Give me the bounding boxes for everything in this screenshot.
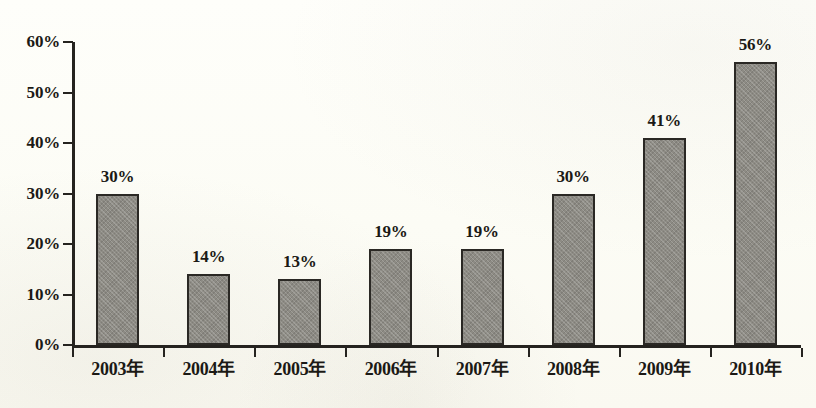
x-axis-tick [254, 348, 256, 357]
x-axis-tick [528, 348, 530, 357]
y-axis-tick-label: 10% [4, 286, 60, 303]
bar-value-label: 19% [437, 223, 527, 240]
x-axis-category-label: 2010年 [710, 360, 801, 378]
y-axis-tick-label: 40% [4, 134, 60, 151]
bar [96, 194, 139, 346]
x-axis-tick [345, 348, 347, 357]
bar-value-label: 30% [528, 168, 618, 185]
y-axis-tick [63, 142, 73, 144]
y-axis-tick [63, 193, 73, 195]
y-axis-tick-label: 50% [4, 84, 60, 101]
y-axis-tick-label: 0% [4, 336, 60, 353]
bar-value-label: 14% [164, 248, 254, 265]
chart-page: 0%10%20%30%40%50%60% 30%14%13%19%19%30%4… [0, 0, 816, 408]
bar [552, 194, 595, 346]
y-axis-tick [63, 344, 73, 346]
y-axis-tick-label: 60% [4, 33, 60, 50]
x-axis-category-label: 2004年 [163, 360, 254, 378]
bar-value-label: 19% [346, 223, 436, 240]
bar [461, 249, 504, 345]
x-axis-tick [710, 348, 712, 357]
y-axis-tick [63, 92, 73, 94]
x-axis-tick [437, 348, 439, 357]
bar [734, 62, 777, 345]
y-axis-tick [63, 41, 73, 43]
bar [643, 138, 686, 345]
y-axis-tick [63, 294, 73, 296]
x-axis-category-label: 2007年 [437, 360, 528, 378]
bar [369, 249, 412, 345]
bar [278, 279, 321, 345]
bar [187, 274, 230, 345]
bar-chart-plot-area: 0%10%20%30%40%50%60% 30%14%13%19%19%30%4… [0, 0, 816, 408]
bar-value-label: 56% [710, 36, 800, 53]
y-axis-tick-label: 30% [4, 185, 60, 202]
y-axis-tick-label: 20% [4, 235, 60, 252]
x-axis-tick [163, 348, 165, 357]
x-axis-category-label: 2009年 [619, 360, 710, 378]
x-axis-tick [801, 348, 803, 357]
y-axis-line [72, 42, 75, 348]
x-axis-category-label: 2008年 [528, 360, 619, 378]
x-axis-category-label: 2003年 [72, 360, 163, 378]
bar-value-label: 13% [255, 253, 345, 270]
x-axis-tick [619, 348, 621, 357]
y-axis-tick [63, 243, 73, 245]
bar-value-label: 41% [619, 112, 709, 129]
bar-value-label: 30% [73, 168, 163, 185]
x-axis-tick [72, 348, 74, 357]
x-axis-category-label: 2006年 [345, 360, 436, 378]
x-axis-category-label: 2005年 [254, 360, 345, 378]
